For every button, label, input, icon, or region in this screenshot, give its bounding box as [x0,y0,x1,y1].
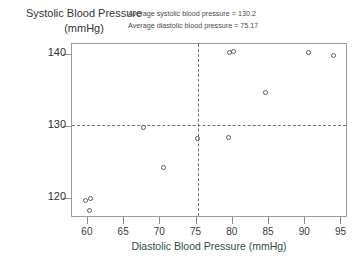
x-tick-mark [123,217,124,224]
x-tick-label: 80 [217,226,247,237]
y-tick-label: 130 [26,118,66,130]
y-tick-label: 140 [26,46,66,58]
annotation-average-diastolic: Average diastolic blood pressure = 75.17 [128,20,258,32]
x-tick-mark [304,217,305,224]
x-tick-label: 60 [72,226,102,237]
data-point [331,53,336,58]
data-point [141,125,146,130]
x-tick-label: 95 [325,226,355,237]
data-point [88,196,93,201]
x-tick-mark [268,217,269,224]
y-tick-label: 120 [26,190,66,202]
plot-area [71,43,347,217]
reference-line-horizontal-mean-systolic [72,125,346,126]
data-point [161,165,166,170]
x-axis-label: Diastolic Blood Pressure (mmHg) [71,240,347,252]
annotation-average-systolic: Average systolic blood pressure = 130.2 [128,8,258,20]
data-point [87,208,92,213]
data-point [263,90,268,95]
data-point [231,49,236,54]
data-point [195,136,200,141]
annotation-block: Average systolic blood pressure = 130.2 … [128,8,258,32]
data-point [306,50,311,55]
scatter-plot-figure: Systolic Blood Pressure (mmHg) Average s… [0,0,362,264]
data-point [226,135,231,140]
x-tick-label: 75 [181,226,211,237]
x-tick-mark [340,217,341,224]
x-tick-label: 65 [108,226,138,237]
x-tick-mark [87,217,88,224]
x-tick-label: 90 [289,226,319,237]
x-tick-label: 70 [144,226,174,237]
x-tick-mark [232,217,233,224]
x-tick-mark [196,217,197,224]
reference-line-vertical-mean-diastolic [198,44,199,216]
x-tick-label: 85 [253,226,283,237]
x-tick-mark [159,217,160,224]
